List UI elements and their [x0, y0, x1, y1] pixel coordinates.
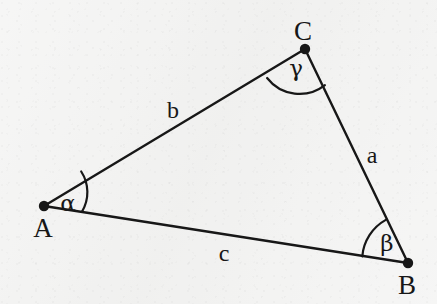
angle-arcs [81, 78, 386, 256]
triangle-figure: A B C a b c α β γ [0, 0, 437, 304]
vertex-label-a: A [33, 215, 53, 242]
angle-label-beta: β [380, 232, 393, 255]
triangle-sides [44, 49, 408, 263]
angle-label-alpha: α [60, 192, 76, 215]
vertex-dot-b [403, 258, 413, 268]
side-b-line [44, 49, 305, 206]
side-label-b: b [167, 98, 179, 122]
angle-alpha-arc [81, 172, 87, 212]
vertex-label-b: B [398, 272, 416, 299]
side-label-c: c [219, 241, 230, 265]
vertex-dot-a [39, 201, 49, 211]
side-label-a: a [367, 143, 378, 167]
vertex-label-c: C [294, 18, 312, 45]
angle-label-gamma: γ [289, 57, 303, 80]
